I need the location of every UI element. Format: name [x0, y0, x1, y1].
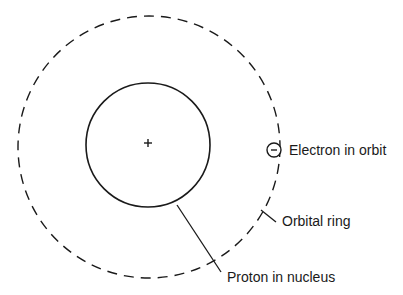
- proton-label: Proton in nucleus: [227, 269, 335, 285]
- proton-leader: [177, 205, 221, 272]
- orbital-ring-leader: [261, 210, 276, 222]
- orbital-ring: [18, 16, 280, 278]
- atom-diagram: Electron in orbit Orbital ring Proton in…: [0, 0, 403, 295]
- proton-plus-icon: [144, 139, 152, 147]
- electron-label: Electron in orbit: [289, 142, 386, 158]
- orbital-ring-label: Orbital ring: [282, 213, 350, 229]
